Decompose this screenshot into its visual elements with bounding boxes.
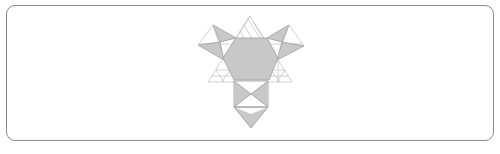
geometric-net-figure (0, 0, 500, 154)
bottom-triangle (234, 107, 268, 128)
square-with-x (234, 81, 268, 107)
